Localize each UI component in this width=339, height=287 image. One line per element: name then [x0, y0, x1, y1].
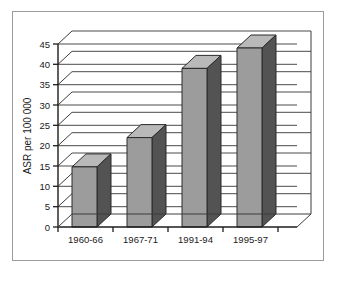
y-tick-label-45: 45	[39, 39, 50, 50]
y-tick-label-10: 10	[39, 181, 50, 192]
x-category-label-1967-71: 1967-71	[123, 234, 158, 245]
bar-1991-94[interactable]	[182, 55, 221, 227]
bar-1995-97[interactable]	[237, 35, 276, 227]
bar-1960-66[interactable]	[72, 154, 111, 227]
right-wall-bottom	[297, 214, 311, 227]
chart-figure: 45 40 35 30 25 20 15 10 5 0 1960-66 1967…	[0, 0, 339, 287]
y-tick-label-40: 40	[39, 59, 50, 70]
y-tick-label-30: 30	[39, 100, 50, 111]
bar-1967-71[interactable]	[127, 125, 166, 227]
x-category-label-1995-97: 1995-97	[233, 234, 268, 245]
y-tick-label-15: 15	[39, 161, 50, 172]
y-tick-label-5: 5	[45, 201, 50, 212]
bar-chart-svg: 45 40 35 30 25 20 15 10 5 0 1960-66 1967…	[0, 0, 339, 287]
x-category-label-1991-94: 1991-94	[178, 234, 213, 245]
y-tick-marks	[53, 44, 58, 227]
y-tick-label-35: 35	[39, 79, 50, 90]
y-tick-label-20: 20	[39, 140, 50, 151]
y-tick-label-0: 0	[45, 222, 50, 233]
x-tick-marks	[58, 227, 278, 232]
y-tick-label-25: 25	[39, 120, 50, 131]
y-axis-title: ASR per 100 000	[22, 97, 33, 174]
plot-container: 45 40 35 30 25 20 15 10 5 0 1960-66 1967…	[0, 0, 339, 287]
x-category-label-1960-66: 1960-66	[68, 234, 103, 245]
floor-depth-line	[58, 214, 72, 227]
